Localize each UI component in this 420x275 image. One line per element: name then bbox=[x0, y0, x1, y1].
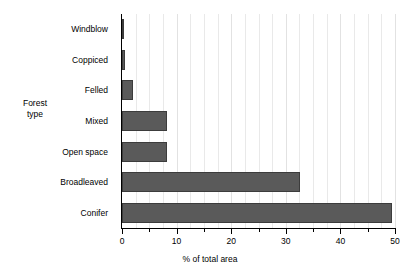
x-axis-tick-label: 0 bbox=[107, 236, 137, 246]
gridline bbox=[354, 14, 355, 228]
gridline bbox=[313, 14, 314, 228]
plot-area bbox=[122, 14, 395, 228]
gridline bbox=[368, 14, 369, 228]
x-axis-minor-tick bbox=[204, 229, 205, 232]
gridline bbox=[259, 14, 260, 228]
gridline bbox=[272, 14, 273, 228]
gridline bbox=[381, 14, 382, 228]
category-label: Windblow bbox=[0, 24, 115, 34]
category-label: Open space bbox=[0, 147, 115, 157]
y-axis-line bbox=[121, 14, 122, 228]
x-axis-major-tick bbox=[231, 229, 232, 234]
x-axis-tick-label: 40 bbox=[325, 236, 355, 246]
gridline bbox=[395, 14, 396, 228]
x-axis-major-tick bbox=[177, 229, 178, 234]
x-axis-minor-tick bbox=[149, 229, 150, 232]
x-axis-tick-label: 30 bbox=[271, 236, 301, 246]
category-label: Mixed bbox=[0, 116, 115, 126]
x-axis-major-tick bbox=[395, 229, 396, 234]
gridline bbox=[177, 14, 178, 228]
category-label-column: WindblowCoppicedFelledMixedOpen spaceBro… bbox=[0, 0, 115, 275]
category-label: Broadleaved bbox=[0, 177, 115, 187]
bar-chart: Forest type WindblowCoppicedFelledMixedO… bbox=[0, 0, 420, 275]
bar bbox=[122, 80, 133, 100]
bar bbox=[122, 111, 167, 131]
gridline bbox=[218, 14, 219, 228]
bar bbox=[122, 50, 125, 70]
bar bbox=[122, 172, 300, 192]
x-axis-major-tick bbox=[340, 229, 341, 234]
gridline bbox=[327, 14, 328, 228]
gridline bbox=[204, 14, 205, 228]
gridline bbox=[231, 14, 232, 228]
x-axis-minor-tick bbox=[313, 229, 314, 232]
x-axis-major-tick bbox=[122, 229, 123, 234]
bar bbox=[122, 142, 167, 162]
x-axis-title: % of total area bbox=[0, 254, 420, 264]
bar bbox=[122, 19, 124, 39]
x-axis-tick-label: 10 bbox=[162, 236, 192, 246]
gridline bbox=[245, 14, 246, 228]
category-label: Conifer bbox=[0, 208, 115, 218]
gridline bbox=[190, 14, 191, 228]
gridline bbox=[299, 14, 300, 228]
gridline bbox=[340, 14, 341, 228]
x-axis-major-tick bbox=[286, 229, 287, 234]
category-label: Coppiced bbox=[0, 55, 115, 65]
bar bbox=[122, 203, 392, 223]
x-axis-tick-label: 20 bbox=[216, 236, 246, 246]
category-label: Felled bbox=[0, 85, 115, 95]
x-axis-minor-tick bbox=[259, 229, 260, 232]
x-axis-minor-tick bbox=[368, 229, 369, 232]
gridline bbox=[286, 14, 287, 228]
x-axis-tick-label: 50 bbox=[380, 236, 410, 246]
